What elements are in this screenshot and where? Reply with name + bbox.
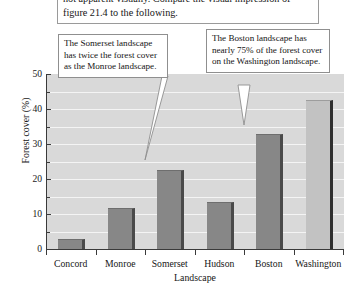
x-tick-label-washington: Washington: [288, 258, 349, 269]
x-axis-tick-labels: ConcordMonroeSomersetHudsonBostonWashing…: [46, 258, 344, 272]
bar-slot: [295, 74, 345, 249]
bar-slot: [97, 74, 147, 249]
bar-slot: [47, 74, 97, 249]
y-tick-label: 10: [20, 209, 42, 219]
bar-somerset: [157, 170, 184, 249]
bar-hudson: [207, 202, 234, 249]
x-tick: [145, 250, 146, 255]
bar-concord: [58, 239, 85, 250]
x-axis-title: Landscape: [46, 272, 344, 283]
x-tick: [195, 250, 196, 255]
x-tick: [244, 250, 245, 255]
caption-text: not apparent visually. Compare the visua…: [63, 0, 290, 18]
y-axis-ticks: [46, 74, 51, 249]
bar-washington: [306, 100, 333, 249]
y-axis-title: Forest cover (%): [20, 66, 31, 196]
y-tick-major: [46, 179, 51, 180]
x-tick: [343, 250, 344, 255]
callout-pointer-somerset: [140, 76, 180, 166]
bars-group: [47, 74, 344, 249]
caption-text-box: not apparent visually. Compare the visua…: [57, 0, 319, 24]
y-tick-minor: [46, 127, 50, 128]
y-tick-label: 0: [20, 244, 42, 254]
y-tick-major: [46, 214, 51, 215]
x-tick: [46, 250, 47, 255]
callout-pointer-boston: [236, 85, 260, 129]
y-tick-minor: [46, 162, 50, 163]
annotation-text: The Somerset landscape has twice the for…: [64, 38, 157, 71]
y-tick-major: [46, 144, 51, 145]
plot-area: [46, 74, 344, 249]
y-tick-major: [46, 109, 51, 110]
annotation-text: The Boston landscape has nearly 75% of t…: [212, 33, 322, 66]
annotation-callout-somerset: The Somerset landscape has twice the for…: [58, 34, 168, 78]
bar-boston: [256, 134, 283, 250]
x-tick: [96, 250, 97, 255]
y-tick-minor: [46, 232, 50, 233]
x-tick: [294, 250, 295, 255]
y-tick-major: [46, 74, 51, 75]
y-tick-minor: [46, 92, 50, 93]
x-axis-ticks: [46, 250, 344, 255]
y-tick-minor: [46, 197, 50, 198]
figure-panel: not apparent visually. Compare the visua…: [0, 0, 349, 289]
bar-monroe: [108, 208, 135, 249]
annotation-callout-boston: The Boston landscape has nearly 75% of t…: [206, 29, 330, 73]
